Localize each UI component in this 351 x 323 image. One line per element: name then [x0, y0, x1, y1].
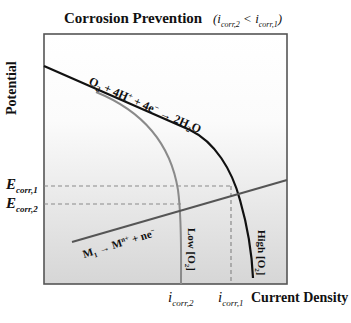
y-axis-label: Potential [4, 61, 20, 115]
icorr1-label: icorr,1 [218, 289, 243, 308]
ecorr1-label: Ecorr,1 [6, 176, 38, 195]
ecorr2-label: Ecorr,2 [6, 195, 38, 214]
icorr2-label: icorr,2 [168, 289, 193, 308]
figure-subtitle: (icorr,2 < icorr,1) [213, 11, 282, 29]
figure-title: Corrosion Prevention [64, 10, 202, 27]
x-axis-label: Current Density [251, 290, 348, 306]
diagram-canvas: O2 + 4H+ + 4e− → 2H2O M1 → Mn+ + ne− Low… [0, 0, 351, 323]
